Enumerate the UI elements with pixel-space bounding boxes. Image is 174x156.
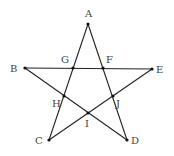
point-B (23, 66, 26, 69)
label-G: G (61, 54, 69, 65)
point-J (111, 94, 114, 97)
point-A (86, 22, 89, 25)
segment-AC (49, 24, 88, 140)
point-D (125, 138, 128, 141)
segment-CE (49, 69, 152, 140)
point-E (150, 67, 153, 70)
label-F: F (106, 54, 113, 65)
label-H: H (52, 98, 61, 109)
point-C (47, 138, 50, 141)
label-D: D (131, 135, 139, 146)
pentagram-diagram: A B C D E F G H I J (0, 0, 174, 156)
point-F (101, 66, 104, 69)
label-A: A (84, 8, 93, 19)
label-I: I (85, 118, 89, 129)
point-H (62, 94, 65, 97)
point-G (71, 66, 74, 69)
label-J: J (115, 98, 120, 109)
label-B: B (10, 63, 17, 74)
point-I (86, 111, 89, 114)
segment-BE (25, 68, 152, 69)
label-C: C (35, 135, 43, 146)
segment-BD (25, 68, 127, 140)
label-E: E (156, 64, 163, 75)
segment-AD (88, 24, 127, 140)
